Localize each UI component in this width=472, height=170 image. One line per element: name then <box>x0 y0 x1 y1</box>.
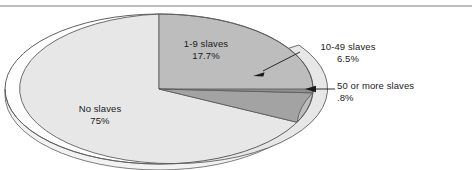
slice-label-1-9-slaves-value: 17.7% <box>168 50 244 62</box>
slice-label-50-or-more-slaves-value: .8% <box>337 92 449 104</box>
slice-label-no-slaves-value: 75% <box>57 115 143 127</box>
pie-slices <box>5 14 328 164</box>
slice-label-no-slaves: No slaves 75% <box>57 103 143 126</box>
slice-label-10-49-slaves: 10-49 slaves 6.5% <box>302 41 394 64</box>
slice-label-1-9-slaves-name: 1-9 slaves <box>168 38 244 50</box>
slice-label-no-slaves-name: No slaves <box>57 103 143 115</box>
slice-label-1-9-slaves: 1-9 slaves 17.7% <box>168 38 244 61</box>
pie-chart-figure: No slaves 75% 1-9 slaves 17.7% 10-49 sla… <box>0 0 472 170</box>
slice-label-50-or-more-slaves-name: 50 or more slaves <box>337 80 449 92</box>
slice-label-10-49-slaves-name: 10-49 slaves <box>302 41 394 53</box>
slice-label-10-49-slaves-value: 6.5% <box>302 53 394 65</box>
slice-label-50-or-more-slaves: 50 or more slaves .8% <box>337 80 449 103</box>
